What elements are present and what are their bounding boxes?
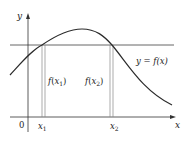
y-axis-arrow-icon — [26, 13, 30, 19]
x-axis-arrow-icon — [170, 115, 176, 119]
origin-label: 0 — [19, 120, 24, 130]
segment-x2 — [110, 45, 113, 117]
curve-label: y = f(x) — [135, 56, 168, 66]
f-x1-label: f(x1) — [47, 76, 66, 87]
segment-x1 — [42, 45, 45, 117]
function-diagram: y x 0 x1 x2 f(x1) f(x2) y = f(x) — [0, 0, 191, 141]
x1-label: x1 — [38, 121, 47, 132]
y-axis-label: y — [16, 11, 23, 21]
x-axis-label: x — [175, 120, 180, 130]
function-curve — [10, 29, 172, 105]
f-x2-label: f(x2) — [84, 76, 103, 87]
x2-label: x2 — [110, 121, 119, 132]
